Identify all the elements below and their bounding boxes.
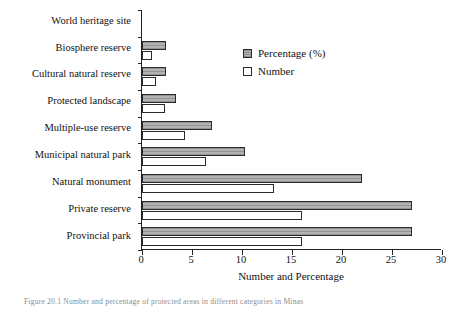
bar-number-private-reserve bbox=[142, 211, 302, 220]
bar-percentage-cultural-natural-reserve bbox=[142, 67, 166, 76]
legend-item-percentage: Percentage (%) bbox=[243, 46, 326, 60]
x-axis-title: Number and Percentage bbox=[141, 270, 441, 282]
figure-container: World heritage site Biosphere reserve Cu… bbox=[0, 0, 460, 310]
category-label-private-reserve: Private reserve bbox=[68, 203, 131, 215]
bar-group-private-reserve bbox=[142, 197, 441, 224]
x-tick-label-20: 20 bbox=[336, 254, 347, 265]
bar-number-cultural-natural-reserve bbox=[142, 77, 156, 86]
bar-group-protected-landscape bbox=[142, 90, 441, 117]
legend-swatch-percentage-icon bbox=[243, 49, 252, 58]
bar-percentage-biosphere-reserve bbox=[142, 41, 166, 50]
category-label-world-heritage-site: World heritage site bbox=[51, 15, 131, 27]
category-label-provincial-park: Provincial park bbox=[67, 230, 131, 242]
bar-number-municipal-natural-park bbox=[142, 157, 206, 166]
bar-percentage-provincial-park bbox=[142, 227, 412, 236]
x-axis-tick-labels: 0 5 10 15 20 25 30 bbox=[141, 254, 441, 270]
bar-number-biosphere-reserve bbox=[142, 51, 152, 60]
x-tick-label-15: 15 bbox=[286, 254, 297, 265]
category-label-natural-monument: Natural monument bbox=[52, 176, 131, 188]
bar-group-municipal-natural-park bbox=[142, 143, 441, 170]
category-label-biosphere-reserve: Biosphere reserve bbox=[55, 42, 131, 54]
legend-item-number: Number bbox=[243, 64, 326, 78]
legend-label-percentage: Percentage (%) bbox=[258, 47, 326, 59]
bar-number-protected-landscape bbox=[142, 104, 165, 113]
bar-number-provincial-park bbox=[142, 237, 302, 246]
x-tick-label-0: 0 bbox=[138, 254, 143, 265]
bar-group-provincial-park bbox=[142, 223, 441, 250]
bar-percentage-natural-monument bbox=[142, 174, 362, 183]
category-axis-labels: World heritage site Biosphere reserve Cu… bbox=[0, 10, 137, 250]
chart-legend: Percentage (%) Number bbox=[243, 46, 326, 82]
category-label-municipal-natural-park: Municipal natural park bbox=[35, 149, 131, 161]
x-tick-label-25: 25 bbox=[386, 254, 397, 265]
category-label-multiple-use-reserve: Multiple-use reserve bbox=[44, 122, 131, 134]
x-tick-label-30: 30 bbox=[436, 254, 447, 265]
bar-group-world-heritage-site bbox=[142, 10, 441, 37]
figure-caption: Figure 20.1 Number and percentage of pro… bbox=[24, 297, 442, 306]
category-label-cultural-natural-reserve: Cultural natural reserve bbox=[32, 68, 131, 80]
bar-number-natural-monument bbox=[142, 184, 274, 193]
bar-percentage-municipal-natural-park bbox=[142, 147, 245, 156]
x-tick-label-10: 10 bbox=[236, 254, 247, 265]
category-label-protected-landscape: Protected landscape bbox=[47, 95, 131, 107]
legend-swatch-number-icon bbox=[243, 67, 252, 76]
bar-percentage-protected-landscape bbox=[142, 94, 176, 103]
x-tick-label-5: 5 bbox=[188, 254, 193, 265]
bar-percentage-multiple-use-reserve bbox=[142, 121, 212, 130]
bar-group-natural-monument bbox=[142, 170, 441, 197]
bar-group-multiple-use-reserve bbox=[142, 117, 441, 144]
bar-percentage-private-reserve bbox=[142, 201, 412, 210]
bar-number-multiple-use-reserve bbox=[142, 131, 185, 140]
legend-label-number: Number bbox=[258, 65, 294, 77]
